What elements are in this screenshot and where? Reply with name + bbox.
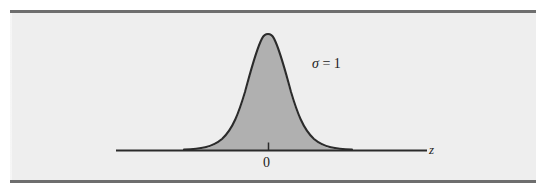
origin-axis-label: 0 bbox=[263, 155, 270, 171]
sigma-symbol: σ bbox=[312, 56, 319, 71]
figure-container: σ = 1 0 z bbox=[0, 0, 545, 195]
curve-fill-area bbox=[187, 34, 349, 151]
sigma-equals-sign: = bbox=[319, 56, 334, 71]
sigma-annotation: σ = 1 bbox=[312, 56, 341, 72]
z-axis-variable-label: z bbox=[429, 142, 434, 158]
sigma-value: 1 bbox=[334, 56, 341, 71]
normal-distribution-plot bbox=[0, 0, 545, 195]
